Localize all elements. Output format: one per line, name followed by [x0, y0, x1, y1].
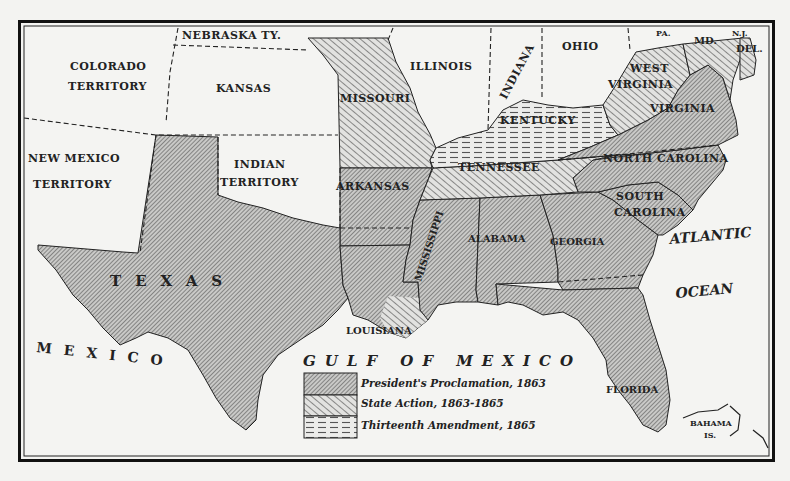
label-colorado-1: COLORADO: [70, 60, 146, 73]
legend-label-proclamation: President's Proclamation, 1863: [360, 377, 546, 389]
label-kentucky: KENTUCKY: [500, 114, 576, 127]
legend-swatch-thirteenth: [304, 416, 357, 438]
label-west-virginia-2: VIRGINIA: [607, 78, 673, 91]
label-illinois: ILLINOIS: [410, 60, 473, 73]
legend-label-thirteenth: Thirteenth Amendment, 1865: [361, 419, 536, 431]
label-pa: PA.: [656, 28, 671, 38]
label-gulf: GULF OF MEXICO: [303, 352, 582, 370]
label-del: DEL.: [736, 43, 763, 54]
label-arkansas: ARKANSAS: [335, 180, 410, 193]
label-indian-2: TERRITORY: [220, 176, 299, 189]
label-florida: FLORIDA: [606, 384, 659, 395]
label-north-carolina: NORTH CAROLINA: [603, 152, 728, 165]
label-texas: TEXAS: [110, 272, 236, 290]
map-frame: COLORADO TERRITORY NEBRASKA TY. KANSAS N…: [18, 20, 775, 462]
map-svg: COLORADO TERRITORY NEBRASKA TY. KANSAS N…: [18, 20, 775, 462]
label-ohio: OHIO: [562, 40, 599, 53]
label-kansas: KANSAS: [216, 82, 271, 95]
label-nebraska: NEBRASKA TY.: [182, 29, 281, 42]
label-bahama-2: IS.: [704, 430, 716, 440]
label-south-carolina-2: CAROLINA: [614, 206, 685, 219]
label-new-mexico-1: NEW MEXICO: [28, 152, 120, 165]
label-south-carolina-1: SOUTH: [616, 190, 664, 203]
label-nj: N.J.: [732, 28, 748, 38]
label-alabama: ALABAMA: [467, 233, 526, 244]
legend-swatch-state-action: [304, 395, 357, 416]
label-louisiana: LOUISIANA: [346, 325, 412, 336]
label-missouri: MISSOURI: [340, 92, 410, 105]
label-new-mexico-2: TERRITORY: [33, 178, 112, 191]
label-bahama-1: BAHAMA: [690, 418, 733, 428]
legend-label-state-action: State Action, 1863-1865: [361, 397, 504, 409]
label-west-virginia-1: WEST: [629, 62, 669, 75]
label-indian-1: INDIAN: [234, 158, 285, 171]
label-md: MD.: [694, 35, 717, 46]
label-colorado-2: TERRITORY: [68, 80, 147, 93]
label-virginia: VIRGINIA: [649, 102, 715, 115]
label-tennessee: TENNESSEE: [458, 161, 540, 174]
legend-swatch-proclamation: [304, 373, 357, 395]
label-georgia: GEORGIA: [550, 236, 604, 247]
